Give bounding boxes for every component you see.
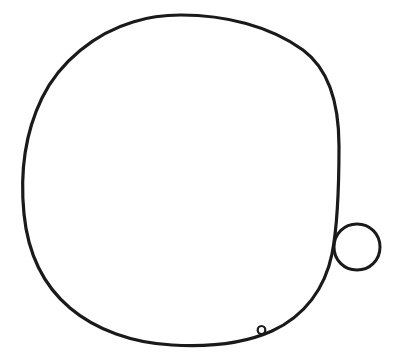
- canvas-background: [0, 0, 394, 361]
- figure-canvas: Line drawing of a large circle with a sm…: [0, 0, 394, 361]
- drawing-svg: [0, 0, 394, 361]
